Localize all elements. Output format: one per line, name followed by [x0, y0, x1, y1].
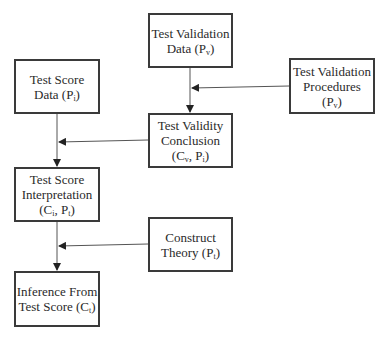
node-label-line: Test Score — [22, 172, 93, 187]
edge-construct-to-line — [59, 244, 148, 246]
node-label-line: Test Validation — [293, 64, 371, 79]
diagram-canvas: Test ValidationData (Pv) Test Validation… — [0, 0, 388, 343]
node-test-validation-procedures: Test ValidationProcedures(Pv) — [289, 58, 375, 114]
node-label: Inference FromTest Score (Ct) — [17, 284, 98, 314]
node-test-validation-data: Test ValidationData (Pv) — [148, 13, 233, 68]
node-test-validity-conclusion: Test ValidityConclusion(Cv, Pi) — [148, 113, 233, 168]
node-construct-theory: ConstructTheory (Pt) — [148, 217, 233, 272]
node-label: Test ScoreData (Pi) — [30, 72, 84, 102]
edge-conclusion-to-line — [59, 140, 148, 142]
node-label: Test ValidationProcedures(Pv) — [293, 64, 371, 109]
node-label-line: Conclusion — [158, 133, 224, 148]
node-label-line: Test Score (Ct) — [17, 299, 98, 314]
node-test-score-interpretation: Test ScoreInterpretation(Ci, Pt) — [14, 167, 100, 222]
node-label-line: Interpretation — [22, 187, 93, 202]
node-label: ConstructTheory (Pt) — [161, 230, 220, 260]
node-label: Test ScoreInterpretation(Ci, Pt) — [22, 172, 93, 217]
node-label: Test ValidityConclusion(Cv, Pi) — [158, 118, 224, 163]
node-label: Test ValidationData (Pv) — [152, 26, 230, 56]
node-label-line: (Cv, Pi) — [158, 148, 224, 163]
node-label-line: Procedures — [293, 79, 371, 94]
node-label-line: Construct — [161, 230, 220, 245]
node-label-line: (Ci, Pt) — [22, 202, 93, 217]
node-test-score-data: Test ScoreData (Pi) — [14, 59, 100, 114]
node-label-line: Test Validation — [152, 26, 230, 41]
edge-procedures-to-line — [192, 86, 289, 88]
node-inference-from-test-score: Inference FromTest Score (Ct) — [14, 271, 100, 327]
node-label-line: Data (Pv) — [152, 41, 230, 56]
node-label-line: Inference From — [17, 284, 98, 299]
node-label-line: Test Validity — [158, 118, 224, 133]
node-label-line: Theory (Pt) — [161, 245, 220, 260]
node-label-line: (Pv) — [293, 94, 371, 109]
node-label-line: Test Score — [30, 72, 84, 87]
node-label-line: Data (Pi) — [30, 87, 84, 102]
